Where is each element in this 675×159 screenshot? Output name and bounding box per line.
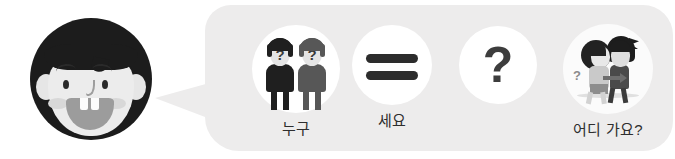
flashcard-item-who[interactable]: ? ? 누구 [250,25,342,138]
person-hair-side-right-a [299,44,304,57]
avatar-eye-right [102,80,108,89]
flashcard-caption-who: 누구 [250,117,342,138]
person-hair-side-right-b [320,44,325,57]
flashcard-caption-equals: 세요 [350,109,434,130]
person-hair-side-left-a [267,44,272,57]
person-leg-right-b [315,90,321,110]
flashcard-caption-where: 어디 가요? [556,118,660,139]
flashcard-item-question[interactable]: ? [458,26,538,108]
person-hair-side-left-b [288,44,293,57]
avatar [30,18,152,140]
avatar-eyebrow-left [55,63,76,78]
question-mark-icon: ? [459,26,537,104]
two-people-with-question-marks-icon: ? ? [252,25,340,113]
woman-leg-left [586,92,593,105]
direction-arrow-icon [603,76,621,80]
person-body-right [298,64,326,92]
avatar-cheek-left [48,98,68,109]
avatar-tooth-left [80,98,88,110]
flashcard-item-where[interactable]: ? 어디 가요? [556,24,660,139]
person-leg-right-a [303,90,309,110]
avatar-eye-left [63,80,69,89]
couple-walking-icon: ? [563,24,653,114]
person-body-left [266,64,294,92]
person-leg-left-a [271,90,277,110]
person-leg-left-b [283,90,289,110]
speech-bubble-tail [155,82,213,120]
avatar-tooth-right [91,98,99,110]
question-mark-glyph: ? [459,26,537,104]
flashcard-strip: ? ? 누구 [0,0,675,159]
equals-sign-icon [352,25,432,105]
equals-bar-top [366,54,418,63]
woman-question-mark: ? [573,68,581,83]
flashcard-item-equals[interactable]: 세요 [350,25,434,130]
equals-bar-bottom [366,71,418,80]
woman-hair-front [588,42,606,56]
man-leg-right [621,88,629,104]
